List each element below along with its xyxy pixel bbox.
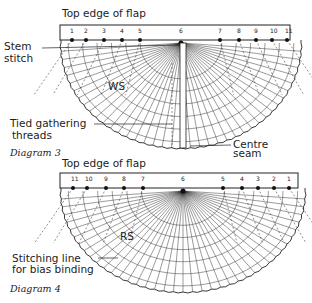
stitch-dot <box>218 38 222 42</box>
stitch-dot <box>254 38 258 42</box>
pleat-line <box>74 43 181 91</box>
stitch-dot <box>104 186 108 190</box>
gathering-thread <box>53 188 87 243</box>
pleat-line <box>104 191 183 268</box>
position-number: 8 <box>237 27 241 34</box>
stitch-dot <box>70 38 74 42</box>
pleat-line <box>183 191 221 287</box>
pleat-line <box>181 43 288 91</box>
stitch-dot <box>102 38 106 42</box>
diagram-canvas: 1234567891011 1110987654321 Top edge of … <box>0 0 312 303</box>
position-number: 5 <box>221 175 225 182</box>
stitch-dot <box>240 186 244 190</box>
pleat-line <box>79 43 181 98</box>
position-number: 7 <box>218 27 222 34</box>
pleat-line <box>183 191 292 237</box>
diagram-3-title: Top edge of flap <box>61 7 146 19</box>
gathering-label-line2: threads <box>12 129 52 141</box>
pleat-line <box>183 191 276 257</box>
position-number: 2 <box>84 27 88 34</box>
gathering-thread <box>220 40 234 95</box>
gathering-thread <box>274 188 306 243</box>
stitch-dot <box>141 186 145 190</box>
position-number: 9 <box>254 27 258 34</box>
pleat-line <box>181 43 272 111</box>
pleat-line <box>183 191 304 207</box>
position-number: 5 <box>138 27 142 34</box>
stitch-dot <box>270 38 274 42</box>
pleat-line <box>181 43 283 98</box>
stitch-dot <box>138 38 142 42</box>
position-number: 9 <box>104 175 108 182</box>
pleat-line <box>173 191 183 292</box>
pleat-line <box>183 191 238 281</box>
position-number: 8 <box>122 175 126 182</box>
centre-seam-label-line2: seam <box>233 147 262 159</box>
gathering-thread <box>287 40 312 95</box>
gathering-thread <box>35 188 74 243</box>
apex <box>181 189 186 194</box>
pleat-line <box>144 43 181 143</box>
ws-label: WS <box>108 80 125 92</box>
pleat-line <box>172 43 181 148</box>
position-number: 1 <box>70 27 74 34</box>
stitch-dot <box>272 186 276 190</box>
pleat-line <box>90 43 181 111</box>
position-number: 1 <box>287 175 291 182</box>
top-edge-bar <box>60 173 298 188</box>
position-number: 3 <box>102 27 106 34</box>
position-number: 11 <box>71 175 79 182</box>
stitch-dot <box>71 186 75 190</box>
position-number: 10 <box>270 27 278 34</box>
position-number: 10 <box>85 175 93 182</box>
gathering-thread <box>258 188 284 243</box>
centre-seam-strip <box>180 43 186 148</box>
stitch-dot <box>285 38 289 42</box>
position-number: 6 <box>179 27 183 34</box>
pleat-line <box>164 191 183 291</box>
pleat-line <box>181 43 244 133</box>
gathering-label-line1: Tied gathering <box>9 117 86 129</box>
gathering-thread <box>289 188 312 243</box>
pleat-line <box>183 191 262 268</box>
pleat-line <box>181 43 218 143</box>
pleat-line <box>183 191 247 277</box>
position-number: 2 <box>272 175 276 182</box>
diagram-4-title: Top edge of flap <box>61 157 146 169</box>
pleat-line <box>67 191 183 222</box>
stitching-line-label-line2: for bias binding <box>12 263 94 275</box>
stem-stitch-label-line1: Stem <box>4 40 31 52</box>
position-number: 3 <box>256 175 260 182</box>
stem-stitch-label-line2: stitch <box>4 52 33 64</box>
pleat-line <box>90 191 183 257</box>
stitch-dot <box>221 186 225 190</box>
pleat-line <box>183 191 299 222</box>
pleat-line <box>127 43 182 137</box>
stitch-dot <box>84 38 88 42</box>
stitch-dot <box>237 38 241 42</box>
pleat-line <box>128 191 183 281</box>
gathering-thread <box>34 40 72 95</box>
stitch-dot <box>120 38 124 42</box>
pleat-line <box>145 191 183 287</box>
position-number: 6 <box>181 175 185 182</box>
stitch-dot <box>85 186 89 190</box>
pleat-line <box>181 43 236 137</box>
pleat-line <box>183 191 193 292</box>
diagram-3-caption: Diagram 3 <box>9 147 61 158</box>
position-number: 4 <box>240 175 244 182</box>
pleat-line <box>162 43 181 147</box>
pleat-line <box>67 43 181 75</box>
pleat-line <box>183 191 202 291</box>
position-number: 4 <box>120 27 124 34</box>
stitch-dot <box>287 186 291 190</box>
position-number: 11 <box>285 27 293 34</box>
diagram-4-caption: Diagram 4 <box>9 283 61 294</box>
diagram-3-fan: 1234567891011 <box>34 25 312 149</box>
pleat-line <box>181 43 295 75</box>
pleat-line <box>181 43 300 59</box>
centre-seam-leader <box>190 145 231 146</box>
gathering-thread <box>272 40 304 95</box>
stitch-dot <box>122 186 126 190</box>
stitch-dot <box>256 186 260 190</box>
